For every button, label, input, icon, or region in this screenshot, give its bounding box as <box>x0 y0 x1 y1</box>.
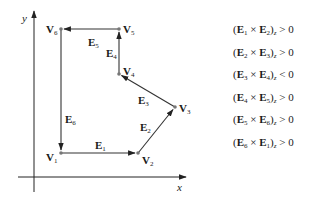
edge-label-e1: E1 <box>95 140 106 151</box>
y-axis-label: y <box>22 13 27 24</box>
condition-row-3: (E3 × E4)z < 0 <box>233 68 294 91</box>
vertex-label-v1: V1 <box>46 152 57 163</box>
condition-row-4: (E4 × E5)z > 0 <box>233 91 294 114</box>
edge-label-e6: E6 <box>65 114 76 125</box>
condition-row-1: (E1 × E2)z > 0 <box>233 23 294 46</box>
x-axis-label: x <box>177 182 182 193</box>
vertex-label-v6: V6 <box>46 24 57 35</box>
vertex-label-v5: V5 <box>123 24 134 35</box>
cross-product-conditions: (E1 × E2)z > 0 (E2 × E3)z > 0 (E3 × E4)z… <box>233 23 294 158</box>
edge-label-e4: E4 <box>106 48 117 59</box>
condition-row-2: (E2 × E3)z > 0 <box>233 46 294 69</box>
condition-row-6: (E6 × E1)z > 0 <box>233 136 294 159</box>
vertex-dot-v1 <box>59 151 63 155</box>
vertex-dot-v2 <box>136 151 140 155</box>
vertex-dot-v4 <box>117 72 121 76</box>
vertex-label-v2: V2 <box>142 155 153 166</box>
edge-label-e2: E2 <box>140 122 151 133</box>
edge-label-e3: E3 <box>138 95 149 106</box>
condition-row-5: (E5 × E6)z > 0 <box>233 113 294 136</box>
vertex-label-v4: V4 <box>123 66 134 77</box>
vertex-label-v3: V3 <box>179 103 190 114</box>
vertex-dot-v3 <box>173 105 177 109</box>
vertex-dot-v5 <box>117 27 121 31</box>
vertex-dot-v6 <box>59 27 63 31</box>
edge-label-e5: E5 <box>88 37 99 48</box>
